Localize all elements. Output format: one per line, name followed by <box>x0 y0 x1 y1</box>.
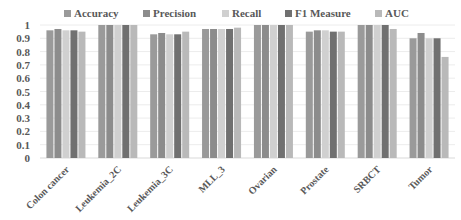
bar-recall <box>114 25 121 158</box>
legend-swatch <box>64 10 71 17</box>
y-tick-label: 0 <box>25 152 31 164</box>
bar-accuracy <box>410 38 417 158</box>
bar-f1-measure <box>70 30 77 158</box>
bar-recall <box>322 30 329 158</box>
x-tick-label: Leukemia_3C <box>125 164 175 214</box>
bar-accuracy <box>306 32 313 158</box>
y-tick-label: 0.3 <box>16 112 30 124</box>
legend-swatch <box>222 10 229 17</box>
bar-auc <box>130 25 137 158</box>
legend: AccuracyPrecisionRecallF1 MeasureAUC <box>64 7 409 19</box>
bar-recall <box>426 38 433 158</box>
x-tick-label: Ovarian <box>246 163 279 196</box>
y-tick-label: 0.1 <box>16 139 30 151</box>
y-tick-label: 0.6 <box>16 72 30 84</box>
bar-recall <box>374 25 381 158</box>
bar-f1-measure <box>278 25 285 158</box>
bar-f1-measure <box>174 34 181 158</box>
x-tick-label: Leukemia_2C <box>73 164 123 214</box>
bar-auc <box>442 57 449 158</box>
bar-f1-measure <box>382 25 389 158</box>
bar-auc <box>182 32 189 158</box>
x-tick-label: Colon cancer <box>24 163 72 211</box>
legend-swatch <box>285 10 292 17</box>
legend-swatch <box>375 10 382 17</box>
legend-label: Recall <box>232 7 261 19</box>
bar-precision <box>366 25 373 158</box>
bar-auc <box>78 32 85 158</box>
y-tick-label: 0.2 <box>16 125 30 137</box>
bar-f1-measure <box>226 29 233 158</box>
bar-accuracy <box>98 25 105 158</box>
x-tick-label: Prostate <box>298 163 331 196</box>
bar-accuracy <box>150 34 157 158</box>
y-tick-label: 0.9 <box>16 32 30 44</box>
bar-precision <box>210 29 217 158</box>
bar-recall <box>270 25 277 158</box>
y-tick-label: 0.7 <box>16 59 30 71</box>
bar-precision <box>54 29 61 158</box>
legend-label: F1 Measure <box>295 7 351 19</box>
bar-accuracy <box>202 29 209 158</box>
y-axis: 00.10.20.30.40.50.60.70.80.91 <box>16 19 30 164</box>
bar-precision <box>106 25 113 158</box>
bar-recall <box>166 34 173 158</box>
bar-recall <box>218 29 225 158</box>
bar-accuracy <box>46 30 53 158</box>
bar-precision <box>314 30 321 158</box>
bar-auc <box>338 32 345 158</box>
bar-precision <box>158 33 165 158</box>
x-tick-label: MLL_3 <box>196 164 227 195</box>
bar-accuracy <box>358 25 365 158</box>
bar-auc <box>390 29 397 158</box>
bar-recall <box>62 30 69 158</box>
legend-swatch <box>143 10 150 17</box>
legend-label: Precision <box>153 7 196 19</box>
bar-precision <box>418 33 425 158</box>
bar-f1-measure <box>122 25 129 158</box>
bar-accuracy <box>254 25 261 158</box>
x-tick-label: Tumor <box>406 163 435 192</box>
bar-auc <box>286 25 293 158</box>
bar-auc <box>234 28 241 158</box>
y-tick-label: 0.8 <box>16 46 30 58</box>
bar-chart: 00.10.20.30.40.50.60.70.80.91 Colon canc… <box>0 0 461 220</box>
legend-label: AUC <box>385 7 409 19</box>
legend-label: Accuracy <box>74 7 119 19</box>
x-axis: Colon cancerLeukemia_2CLeukemia_3CMLL_3O… <box>24 163 435 214</box>
bar-precision <box>262 25 269 158</box>
y-tick-label: 1 <box>25 19 31 31</box>
bar-f1-measure <box>330 32 337 158</box>
y-tick-label: 0.4 <box>16 99 30 111</box>
x-tick-label: SRBCT <box>351 163 383 195</box>
y-tick-label: 0.5 <box>16 86 30 98</box>
bar-f1-measure <box>434 38 441 158</box>
